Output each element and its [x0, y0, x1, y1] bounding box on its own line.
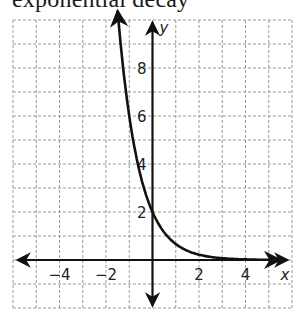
x-tick-label: 4 — [241, 266, 251, 284]
x-tick-label: −4 — [48, 266, 70, 284]
x-tick-label: 2 — [194, 266, 204, 284]
x-tick-label: −2 — [95, 266, 117, 284]
x-axis-label: x — [280, 266, 290, 284]
graph: −4−2242468xy — [0, 0, 300, 314]
y-tick-label: 6 — [137, 108, 147, 126]
tick-labels: −4−2242468xy — [48, 19, 289, 284]
y-tick-label: 2 — [137, 204, 147, 222]
y-tick-label: 8 — [137, 60, 147, 78]
axes — [17, 22, 288, 306]
y-axis-label: y — [159, 19, 170, 37]
